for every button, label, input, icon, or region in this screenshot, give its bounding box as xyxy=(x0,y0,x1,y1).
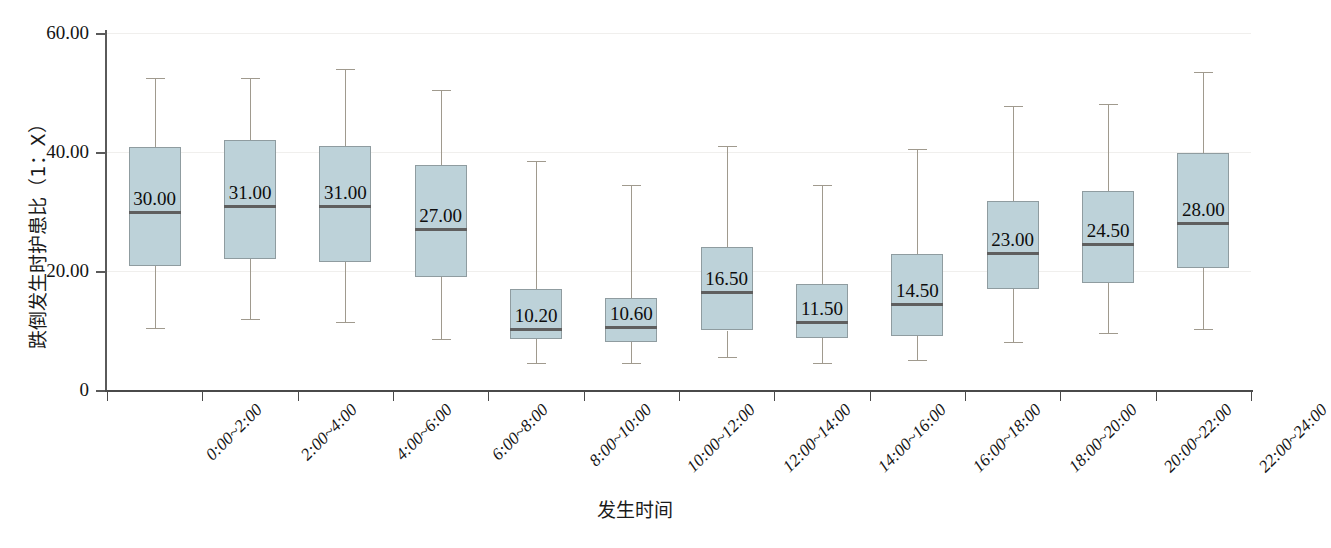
whisker-lower xyxy=(822,338,823,363)
median-value-label: 10.20 xyxy=(492,305,580,327)
whisker-upper xyxy=(155,78,156,148)
x-axis-tick-label: 20:00~22:00 xyxy=(1160,400,1237,477)
median-value-label: 28.00 xyxy=(1159,199,1247,221)
y-axis-tick-label: 40.00 xyxy=(0,141,89,163)
y-axis-title: 跌倒发生时护患比（1：X） xyxy=(23,92,50,372)
gridline xyxy=(107,152,1251,153)
whisker-cap-lower xyxy=(622,363,641,364)
whisker-cap-lower xyxy=(241,319,260,320)
x-axis-tick-mark xyxy=(107,391,108,401)
whisker-upper xyxy=(250,78,251,140)
whisker-cap-upper xyxy=(908,149,927,150)
median-value-label: 31.00 xyxy=(206,182,294,204)
median-value-label: 11.50 xyxy=(778,298,866,320)
whisker-upper xyxy=(345,69,346,146)
x-axis-tick-mark xyxy=(1060,391,1061,401)
x-axis-tick-mark xyxy=(584,391,585,401)
whisker-lower xyxy=(631,342,632,363)
whisker-lower xyxy=(917,336,918,360)
gridline xyxy=(107,271,1251,272)
x-axis-line xyxy=(105,390,1253,392)
y-axis-tick-label: 60.00 xyxy=(0,22,89,44)
whisker-cap-lower xyxy=(1099,333,1118,334)
whisker-cap-lower xyxy=(146,328,165,329)
median-value-label: 24.50 xyxy=(1064,220,1152,242)
whisker-cap-lower xyxy=(336,322,355,323)
median-value-label: 14.50 xyxy=(873,280,961,302)
whisker-upper xyxy=(536,161,537,289)
x-axis-tick-mark xyxy=(393,391,394,401)
x-axis-tick-label: 14:00~16:00 xyxy=(874,400,951,477)
whisker-lower xyxy=(1203,268,1204,329)
median-value-label: 23.00 xyxy=(969,229,1057,251)
y-axis-line xyxy=(105,30,107,392)
y-axis-tick-label: 0 xyxy=(0,379,89,401)
median-line xyxy=(796,321,848,324)
whisker-cap-lower xyxy=(1194,329,1213,330)
median-line xyxy=(605,326,657,329)
whisker-cap-lower xyxy=(1004,342,1023,343)
whisker-cap-lower xyxy=(908,360,927,361)
whisker-lower xyxy=(727,331,728,358)
x-axis-tick-label: 2:00~4:00 xyxy=(297,400,362,465)
whisker-lower xyxy=(250,259,251,319)
whisker-lower xyxy=(441,277,442,339)
whisker-cap-upper xyxy=(336,69,355,70)
whisker-cap-lower xyxy=(432,339,451,340)
whisker-cap-upper xyxy=(1194,72,1213,73)
median-line xyxy=(510,328,562,331)
median-value-label: 31.00 xyxy=(301,182,389,204)
x-axis-tick-mark xyxy=(965,391,966,401)
whisker-cap-upper xyxy=(1004,106,1023,107)
median-line xyxy=(1177,222,1229,225)
whisker-lower xyxy=(1108,283,1109,334)
x-axis-tick-mark xyxy=(202,391,203,401)
y-axis-tick-label: 20.00 xyxy=(0,260,89,282)
x-axis-title: 发生时间 xyxy=(0,495,1269,522)
median-value-label: 10.60 xyxy=(587,303,675,325)
gridline xyxy=(107,33,1251,34)
median-line xyxy=(701,291,753,294)
whisker-cap-upper xyxy=(813,185,832,186)
median-line xyxy=(415,228,467,231)
x-axis-tick-mark xyxy=(488,391,489,401)
median-line xyxy=(319,205,371,208)
whisker-cap-lower xyxy=(718,357,737,358)
x-axis-tick-label: 16:00~18:00 xyxy=(969,400,1046,477)
x-axis-tick-label: 4:00~6:00 xyxy=(392,400,457,465)
whisker-upper xyxy=(1013,106,1014,201)
x-axis-tick-mark xyxy=(1251,391,1252,401)
x-axis-tick-label: 10:00~12:00 xyxy=(683,400,760,477)
whisker-cap-upper xyxy=(432,90,451,91)
x-axis-tick-label: 8:00~10:00 xyxy=(585,400,656,471)
x-axis-tick-mark xyxy=(774,391,775,401)
whisker-upper xyxy=(917,149,918,254)
whisker-lower xyxy=(1013,289,1014,343)
whisker-upper xyxy=(727,146,728,247)
whisker-lower xyxy=(345,262,346,322)
median-value-label: 27.00 xyxy=(397,205,485,227)
x-axis-tick-label: 18:00~20:00 xyxy=(1065,400,1142,477)
whisker-upper xyxy=(631,185,632,298)
x-axis-tick-mark xyxy=(1156,391,1157,401)
whisker-upper xyxy=(822,185,823,284)
whisker-upper xyxy=(441,90,442,166)
median-value-label: 16.50 xyxy=(683,268,771,290)
median-line xyxy=(224,205,276,208)
x-axis-tick-mark xyxy=(298,391,299,401)
whisker-cap-upper xyxy=(241,78,260,79)
median-line xyxy=(987,252,1039,255)
x-axis-tick-label: 12:00~14:00 xyxy=(779,400,856,477)
whisker-lower xyxy=(536,339,537,363)
median-line xyxy=(129,211,181,214)
whisker-cap-upper xyxy=(1099,104,1118,105)
median-line xyxy=(891,303,943,306)
x-axis-tick-label: 6:00~8:00 xyxy=(488,400,553,465)
whisker-cap-lower xyxy=(527,363,546,364)
whisker-upper xyxy=(1203,72,1204,154)
median-line xyxy=(1082,243,1134,246)
whisker-cap-upper xyxy=(527,161,546,162)
x-axis-tick-label: 0:00~2:00 xyxy=(202,400,267,465)
x-axis-tick-mark xyxy=(870,391,871,401)
